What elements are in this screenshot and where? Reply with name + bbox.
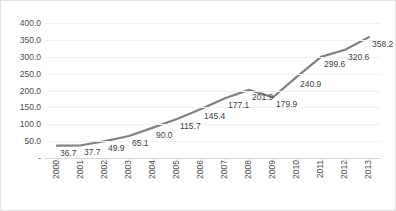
x-axis-tick-mark [369, 158, 370, 161]
y-axis-tick-label: 50.0 [1, 137, 41, 145]
y-axis-tick-label: - [1, 154, 41, 162]
x-axis-tick-label: 2010 [291, 160, 303, 179]
chart-container: 400.0350.0300.0250.0200.0150.0100.050.0-… [0, 0, 396, 211]
gridline [45, 124, 381, 125]
y-axis-tick-label: 100.0 [1, 120, 41, 128]
x-axis-tick-label: 2011 [315, 160, 327, 178]
gridline [45, 74, 381, 75]
x-axis-tick-mark [297, 158, 298, 161]
gridline [45, 107, 381, 108]
x-axis-tick-mark [249, 158, 250, 161]
x-axis-tick-mark [81, 158, 82, 161]
x-axis-tick-label: 2009 [267, 160, 279, 179]
gridline [45, 23, 381, 24]
y-axis-tick-label: 150.0 [1, 103, 41, 111]
x-axis-tick-label: 2013 [363, 160, 375, 179]
data-label: 358.2 [372, 40, 393, 49]
x-axis-tick-label: 2002 [99, 160, 111, 179]
data-label: 145.4 [204, 111, 225, 120]
data-label: 90.0 [156, 130, 173, 139]
data-label: 65.1 [132, 139, 149, 148]
x-axis-tick-mark [129, 158, 130, 161]
x-axis-tick-label: 2005 [171, 160, 183, 179]
gridline [45, 141, 381, 142]
x-axis-tick-mark [273, 158, 274, 161]
x-axis-tick-label: 2008 [243, 160, 255, 179]
x-axis-tick-mark [153, 158, 154, 161]
x-axis-tick-mark [177, 158, 178, 161]
data-label: 115.7 [180, 121, 201, 130]
data-label: 240.9 [300, 79, 321, 88]
data-label: 49.9 [108, 144, 125, 153]
y-axis-tick-label: 200.0 [1, 87, 41, 95]
gridline [45, 40, 381, 41]
gridline [45, 91, 381, 92]
x-axis-tick-label: 2003 [123, 160, 135, 179]
x-axis-tick-label: 2004 [147, 160, 159, 179]
data-label: 201.9 [252, 92, 273, 101]
x-axis-tick-mark [57, 158, 58, 161]
data-label: 320.6 [348, 52, 369, 61]
x-axis-tick-mark [345, 158, 346, 161]
data-label: 177.1 [228, 101, 249, 110]
data-label: 37.7 [84, 148, 101, 157]
data-label: 36.7 [60, 148, 77, 157]
x-axis-tick-mark [201, 158, 202, 161]
x-axis: 2000200120022003200420052006200720082009… [45, 160, 381, 210]
x-axis-tick-label: 2000 [51, 160, 63, 179]
category-axis-line [45, 158, 381, 159]
y-axis: 400.0350.0300.0250.0200.0150.0100.050.0- [1, 1, 41, 211]
x-axis-tick-mark [225, 158, 226, 161]
data-label: 299.6 [324, 59, 345, 68]
x-axis-tick-mark [105, 158, 106, 161]
y-axis-tick-label: 300.0 [1, 53, 41, 61]
x-axis-tick-label: 2001 [75, 160, 87, 179]
x-axis-tick-mark [321, 158, 322, 161]
plot-area [45, 23, 381, 158]
x-axis-tick-label: 2012 [339, 160, 351, 179]
x-axis-tick-label: 2007 [219, 160, 231, 179]
y-axis-tick-label: 400.0 [1, 19, 41, 27]
y-axis-tick-label: 350.0 [1, 36, 41, 44]
y-axis-tick-label: 250.0 [1, 70, 41, 78]
data-label: 179.9 [276, 100, 297, 109]
x-axis-tick-label: 2006 [195, 160, 207, 179]
